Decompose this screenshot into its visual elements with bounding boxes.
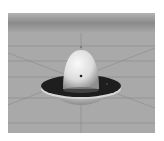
saucer-render: [8, 13, 155, 133]
center-marker: [80, 75, 83, 78]
horizon: [8, 13, 155, 33]
pivot-marker: [80, 46, 82, 48]
edge-marker: [106, 83, 108, 85]
render-viewport: [8, 13, 155, 133]
